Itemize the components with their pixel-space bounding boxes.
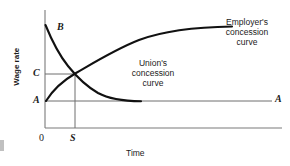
concession-curves-figure: Wage rate Time B C A A 0 S Union's conce… (0, 0, 290, 166)
point-label-A-left: A (33, 94, 40, 106)
point-label-S: S (70, 132, 76, 144)
employer-curve-annotation: Employer's concession curve (205, 17, 289, 47)
x-axis-label: Time (126, 148, 145, 158)
origin-label: 0 (39, 132, 44, 144)
point-label-B: B (57, 21, 64, 33)
y-axis-label: Wage rate (12, 37, 21, 97)
scan-edge-artifact (0, 140, 4, 151)
union-curve-annotation: Union's concession curve (113, 58, 193, 88)
point-label-C: C (33, 67, 40, 79)
point-label-A-right: A (275, 93, 282, 105)
